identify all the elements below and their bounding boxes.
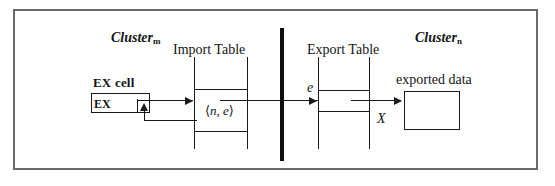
- figure-canvas: Clusterm Import Table Export Table Clust…: [0, 0, 555, 186]
- ex-cell-caption: EX cell: [93, 76, 134, 89]
- cluster-m-text: Cluster: [111, 30, 153, 45]
- edge-label-x: X: [377, 112, 386, 126]
- ex-to-import-arrowhead: [185, 97, 193, 105]
- import-to-ex-arrowhead: [140, 103, 148, 111]
- figure-frame: Clusterm Import Table Export Table Clust…: [13, 9, 538, 170]
- cluster-n-label: Clustern: [415, 31, 462, 45]
- import-to-export-arrowhead: [309, 97, 317, 105]
- export-to-data-arrowhead: [394, 97, 402, 105]
- import-table-title: Import Table: [173, 43, 245, 57]
- cluster-boundary-divider: [280, 28, 284, 161]
- edge-label-e: e: [307, 81, 313, 95]
- import-to-ex-return-line: [144, 120, 197, 121]
- import-to-export-arrow-line: [220, 100, 318, 101]
- export-table-title: Export Table: [307, 43, 379, 57]
- cluster-m-subscript: m: [153, 36, 161, 46]
- exported-data-box: [404, 91, 460, 130]
- cluster-n-text: Cluster: [415, 30, 457, 45]
- cluster-m-label: Clusterm: [111, 31, 161, 45]
- ex-cell-pointer-slot: [137, 99, 138, 113]
- tuple-close-bracket: ⟩: [229, 103, 234, 118]
- exported-data-caption: exported data: [396, 73, 472, 87]
- import-entry-tuple: ⟨n, e⟩: [205, 104, 234, 117]
- ex-cell-box-label: EX: [94, 98, 111, 110]
- export-table-entry-box: [318, 90, 370, 112]
- cluster-n-subscript: n: [457, 36, 462, 46]
